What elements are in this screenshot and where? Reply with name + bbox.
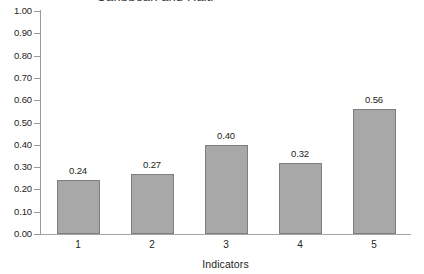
bar: [205, 145, 248, 234]
bar-value-label: 0.27: [127, 160, 177, 170]
bar-value-label: 0.24: [53, 166, 103, 176]
bar-value-label: 0.56: [349, 95, 399, 105]
chart-title: Caribbean and Haiti: [0, 0, 310, 4]
x-axis-tick-label: 2: [127, 240, 177, 250]
bar: [353, 109, 396, 234]
bar: [131, 174, 174, 234]
y-axis-tick-label: 0.50: [0, 118, 32, 128]
bar-chart: Caribbean and Haiti 1.000.900.800.700.60…: [0, 0, 424, 274]
y-axis-tick-label: 0.80: [0, 51, 32, 61]
bar-value-label: 0.32: [275, 149, 325, 159]
y-axis-tick-label: 0.40: [0, 140, 32, 150]
y-axis-tick-label: 0.20: [0, 184, 32, 194]
x-axis-line: [40, 234, 411, 235]
x-axis-tick-label: 3: [201, 240, 251, 250]
y-axis-tick-label: 1.00: [0, 6, 32, 16]
bar-value-label: 0.40: [201, 131, 251, 141]
y-axis-tick-label: 0.70: [0, 73, 32, 83]
plot-area: [40, 11, 410, 234]
x-axis-tick-label: 5: [349, 240, 399, 250]
x-axis-tick-label: 1: [53, 240, 103, 250]
y-axis-tick-label: 0.90: [0, 28, 32, 38]
x-axis-title: Indicators: [40, 258, 411, 270]
y-axis-tick-label: 0.60: [0, 95, 32, 105]
y-axis-tick-label: 0.00: [0, 229, 32, 239]
y-axis-tick-label: 0.30: [0, 162, 32, 172]
y-axis-tick-label: 0.10: [0, 207, 32, 217]
bar: [279, 163, 322, 234]
y-axis-tick: [34, 234, 41, 235]
bar: [57, 180, 100, 234]
x-axis-tick-label: 4: [275, 240, 325, 250]
